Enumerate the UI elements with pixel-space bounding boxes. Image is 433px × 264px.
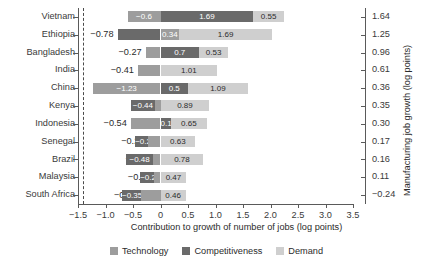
category-label: Indonesia <box>3 115 75 133</box>
bar-segment-competitiveness: 1.69 <box>161 11 254 22</box>
x-tick-label: 3.5 <box>333 210 373 220</box>
bar-segment-technology <box>131 118 161 129</box>
x-axis-title: Contribution to growth of number of jobs… <box>0 222 433 232</box>
chart-row: Senegal0.17−0.22−0.240.63 <box>0 133 433 151</box>
right-axis-tick <box>361 142 366 143</box>
chart-row: Indonesia0.30−0.540.190.65 <box>0 115 433 133</box>
bar-segment-demand: 1.69 <box>179 29 272 40</box>
legend-swatch-icon <box>110 247 118 255</box>
right-axis-value: 0.16 <box>372 151 390 169</box>
bar-segment-demand: 0.78 <box>161 154 204 165</box>
left-axis-tick <box>73 142 78 143</box>
legend-swatch-icon <box>276 247 284 255</box>
bar-segment-demand: 1.09 <box>188 83 248 94</box>
left-axis-tick <box>73 124 78 125</box>
right-axis-tick <box>361 177 366 178</box>
category-label: Senegal <box>3 133 75 151</box>
right-axis-tick <box>361 88 366 89</box>
right-axis-value: 0.61 <box>372 61 390 79</box>
bar-value-label: −0.54 <box>89 118 127 129</box>
chart-row: Bangladesh0.96−0.270.70.53 <box>0 44 433 62</box>
left-axis-tick <box>73 106 78 107</box>
category-label: Bangladesh <box>3 44 75 62</box>
left-axis-tick <box>73 53 78 54</box>
chart-row: South Africa−0.24−0.35−0.350.46 <box>0 186 433 204</box>
bar-segment-technology <box>146 47 161 58</box>
category-label: Vietnam <box>3 8 75 26</box>
x-tick <box>133 204 134 208</box>
category-label: South Africa <box>3 186 75 204</box>
right-axis-value: 0.30 <box>372 115 390 133</box>
legend-item[interactable]: Demand <box>276 246 323 256</box>
category-label: Kenya <box>3 97 75 115</box>
x-tick <box>188 204 189 208</box>
chart-rows: Vietnam1.64−0.61.690.55Ethiopia1.25−0.78… <box>0 8 433 204</box>
right-axis-value: 0.35 <box>372 97 390 115</box>
chart-row: Ethiopia1.25−0.780.341.69 <box>0 26 433 44</box>
right-axis-value: 1.64 <box>372 8 390 26</box>
bar-segment-technology: −1.23 <box>93 83 161 94</box>
left-axis-tick <box>73 159 78 160</box>
bar-segment-demand: 0.55 <box>253 11 283 22</box>
chart-row: Vietnam1.64−0.61.690.55 <box>0 8 433 26</box>
left-axis-tick <box>73 70 78 71</box>
x-axis-title-text: Contribution to growth of number of jobs… <box>131 222 342 232</box>
bar-segment-technology <box>141 190 160 201</box>
x-tick <box>106 204 107 208</box>
left-axis-tick <box>73 17 78 18</box>
bar-segment-competitiveness: −0.44 <box>131 100 155 111</box>
right-axis-tick <box>361 70 366 71</box>
right-axis-tick <box>361 53 366 54</box>
legend-item[interactable]: Technology <box>110 246 168 256</box>
chart-row: China0.36−1.230.51.09 <box>0 79 433 97</box>
legend-item[interactable]: Competitiveness <box>182 246 262 256</box>
legend-swatch-icon <box>182 247 190 255</box>
bar-segment-demand: 0.89 <box>161 100 210 111</box>
right-axis-value: 0.17 <box>372 133 390 151</box>
x-axis-ticks: −1.5−1.0−0.500.51.01.52.02.53.03.5 <box>0 204 433 224</box>
left-axis-tick <box>73 177 78 178</box>
category-label: India <box>3 61 75 79</box>
bar-segment-technology: −0.6 <box>128 11 161 22</box>
legend-label: Demand <box>288 246 323 256</box>
legend-label: Technology <box>122 246 168 256</box>
bar-segment-demand: 0.63 <box>161 136 196 147</box>
bar-segment-technology <box>153 154 161 165</box>
legend-label: Competitiveness <box>194 246 262 256</box>
bar-segment-demand: 0.53 <box>199 47 228 58</box>
bar-segment-demand: 1.01 <box>161 65 217 76</box>
bar-value-label: −0.27 <box>104 47 142 58</box>
x-tick <box>216 204 217 208</box>
right-axis-tick <box>361 195 366 196</box>
x-tick <box>326 204 327 208</box>
x-tick <box>271 204 272 208</box>
bar-segment-competitiveness: 0.19 <box>161 118 171 129</box>
right-axis-tick <box>361 35 366 36</box>
right-axis-tick <box>361 159 366 160</box>
right-axis-value: 0.11 <box>372 168 389 186</box>
right-axis-tick <box>361 106 366 107</box>
x-tick <box>353 204 354 208</box>
left-axis-tick <box>73 88 78 89</box>
bar-value-label: −0.41 <box>96 65 134 76</box>
category-label: Malaysia <box>3 168 75 186</box>
bar-segment-technology <box>138 65 161 76</box>
x-tick <box>243 204 244 208</box>
chart-row: Malaysia0.11−0.11−0.260.47 <box>0 168 433 186</box>
bar-segment-competitiveness: 0.5 <box>161 83 189 94</box>
bar-segment-competitiveness <box>118 29 161 40</box>
category-label: Ethiopia <box>3 26 75 44</box>
right-axis-tick <box>361 124 366 125</box>
bar-segment-competitiveness: 0.7 <box>161 47 200 58</box>
bar-segment-competitiveness: −0.48 <box>126 154 152 165</box>
right-axis-value: 0.36 <box>372 79 390 97</box>
bar-segment-demand: 0.46 <box>161 190 186 201</box>
category-label: Brazil <box>3 151 75 169</box>
stacked-bar-chart: Vietnam1.64−0.61.690.55Ethiopia1.25−0.78… <box>0 0 433 264</box>
bar-segment-technology: 0.34 <box>161 29 180 40</box>
bar-segment-demand: 0.47 <box>161 172 187 183</box>
right-axis-value: 0.96 <box>372 44 390 62</box>
right-axis-title: Manufacturing job growth (log points) <box>402 45 412 196</box>
bar-segment-competitiveness: −0.24 <box>135 136 148 147</box>
bar-value-label: −0.78 <box>76 29 114 40</box>
